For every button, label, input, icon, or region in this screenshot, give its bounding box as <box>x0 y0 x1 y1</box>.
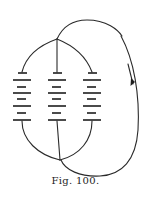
battery-1 <box>13 73 31 120</box>
figure-caption: Fig. 100. <box>0 175 151 186</box>
battery-2 <box>48 73 66 120</box>
parallel-cells-diagram <box>0 0 151 201</box>
bottom-wires <box>22 121 92 160</box>
battery-3 <box>83 73 101 120</box>
top-wires <box>22 20 138 176</box>
